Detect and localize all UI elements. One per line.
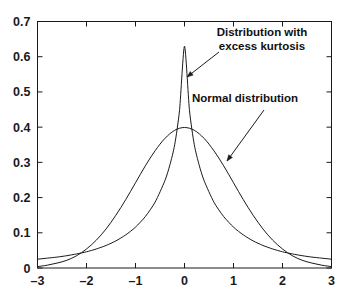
y-tick-label: 0.7: [13, 15, 30, 29]
annotation-line: excess kurtosis: [219, 40, 305, 52]
y-tick-label: 0: [24, 262, 31, 276]
plot-frame: [38, 22, 332, 269]
arrow-head-icon: [227, 155, 232, 161]
x-tick-label: 1: [230, 274, 237, 288]
axis-ticks: [38, 22, 332, 269]
normal-distribution-curve: [38, 127, 332, 266]
chart-annotations: Distribution withexcess kurtosisNormal d…: [187, 26, 307, 161]
y-tick-label: 0.6: [13, 50, 30, 64]
x-tick-label: –1: [129, 274, 143, 288]
normal-annotation: Normal distribution: [192, 92, 298, 161]
annotation-line: Distribution with: [217, 26, 308, 38]
x-tick-label: 2: [279, 274, 286, 288]
y-tick-label: 0.3: [13, 156, 30, 170]
x-tick-label: –2: [80, 274, 94, 288]
y-tick-label: 0.5: [13, 85, 30, 99]
x-tick-label: 3: [328, 274, 335, 288]
x-tick-label: –3: [31, 274, 45, 288]
kurtosis-comparison-chart: –3–2–1012300.10.20.30.40.50.60.7 Distrib…: [0, 0, 350, 299]
excess-kurtosis-curve: [38, 46, 332, 259]
annotation-line: Normal distribution: [192, 92, 298, 104]
y-tick-label: 0.2: [13, 191, 30, 205]
distribution-curves: [38, 46, 332, 266]
leader-line: [227, 110, 264, 161]
chart-page: –3–2–1012300.10.20.30.40.50.60.7 Distrib…: [0, 0, 350, 299]
x-tick-label: 0: [181, 274, 188, 288]
kurtosis-annotation: Distribution withexcess kurtosis: [187, 26, 307, 77]
axis-tick-labels: –3–2–1012300.10.20.30.40.50.60.7: [13, 15, 335, 288]
y-tick-label: 0.1: [13, 226, 30, 240]
y-tick-label: 0.4: [13, 121, 30, 135]
annotation-label: Normal distribution: [192, 92, 298, 104]
annotation-label: Distribution withexcess kurtosis: [217, 26, 308, 52]
